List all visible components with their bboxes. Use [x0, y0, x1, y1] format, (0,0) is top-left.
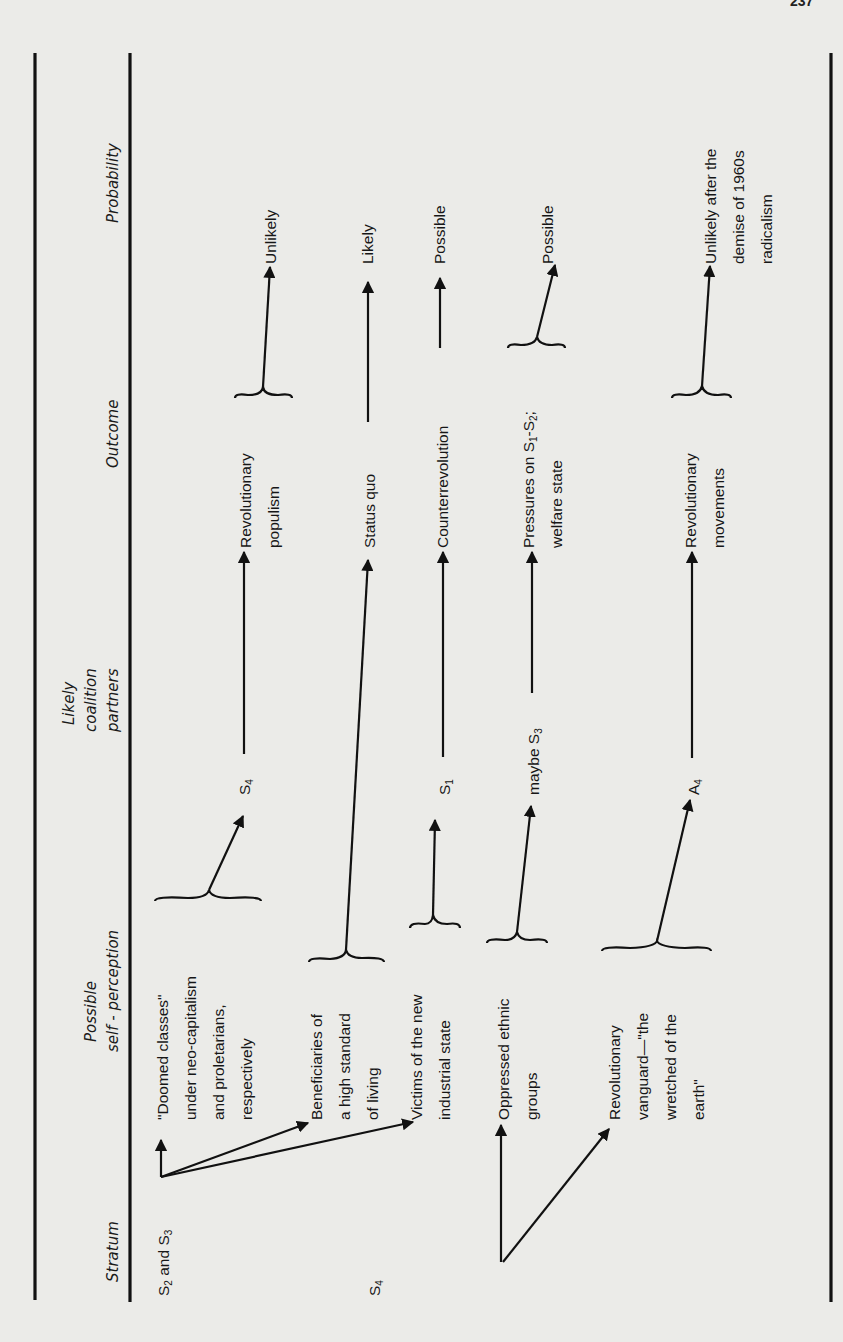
svg-text:Pressures on S1-S2;: Pressures on S1-S2;	[520, 411, 539, 548]
page-number: 237	[790, 0, 814, 9]
outcome-revolutionary-populism: Revolutionary populism	[237, 453, 282, 548]
svg-text:Unlikely after the: Unlikely after the	[702, 149, 719, 264]
arrows-to-outcomes	[244, 552, 692, 758]
svg-text:vanguard—"the: vanguard—"the	[634, 1013, 651, 1120]
arrows-from-s4	[501, 1125, 609, 1262]
svg-text:groups: groups	[523, 1072, 540, 1120]
header-stratum: Stratum	[104, 1221, 122, 1282]
svg-text:industrial state: industrial state	[436, 1020, 453, 1120]
svg-text:respectively: respectively	[238, 1038, 255, 1120]
svg-text:a high standard: a high standard	[336, 1013, 353, 1120]
svg-text:welfare state: welfare state	[548, 460, 565, 549]
stratum-s2-s3: S2 and S3	[155, 1229, 174, 1296]
self-perception-beneficiaries: Beneficiaries of a high standard of livi…	[308, 1013, 381, 1120]
stratum-s4: S4	[366, 1280, 385, 1296]
self-perception-revolutionary-vanguard: Revolutionary vanguard—"the wretched of …	[606, 1013, 707, 1121]
header-self-perception-2: self - perception	[104, 930, 122, 1052]
svg-text:Oppressed ethnic: Oppressed ethnic	[495, 998, 512, 1120]
probability-unlikely-after-1960s: Unlikely after the demise of 1960s radic…	[702, 149, 775, 264]
svg-text:S4: S4	[366, 1280, 385, 1296]
self-perception-doomed-classes: "Doomed classes" under neo-capitalism an…	[154, 976, 255, 1120]
partner-maybe-s3: maybe S3	[525, 728, 544, 795]
svg-text:Beneficiaries of: Beneficiaries of	[308, 1013, 325, 1120]
svg-text:wretched of the: wretched of the	[662, 1014, 679, 1121]
arrows-from-s2-s3	[161, 1122, 413, 1177]
svg-text:of living: of living	[364, 1067, 381, 1120]
svg-text:Likely: Likely	[359, 224, 376, 264]
partner-s4: S4	[236, 779, 255, 795]
svg-text:under neo-capitalism: under neo-capitalism	[182, 976, 199, 1120]
svg-text:"Doomed classes": "Doomed classes"	[154, 994, 171, 1120]
svg-text:Revolutionary: Revolutionary	[682, 453, 699, 548]
svg-text:S2 and S3: S2 and S3	[155, 1229, 174, 1296]
svg-text:Counterrevolution: Counterrevolution	[434, 426, 451, 548]
outcome-revolutionary-movements: Revolutionary movements	[682, 453, 727, 548]
braces-self-perception	[155, 560, 711, 962]
stratum-flow-diagram: 237 Stratum Possible self - perception L…	[0, 0, 843, 1342]
svg-text:A4: A4	[685, 779, 704, 795]
header-coalition-2: coalition	[82, 668, 100, 732]
header-coalition-3: partners	[104, 668, 122, 733]
column-headers: Stratum Possible self - perception Likel…	[60, 142, 122, 1282]
svg-text:earth": earth"	[690, 1079, 707, 1120]
probability-unlikely: Unlikely	[262, 209, 279, 264]
svg-text:maybe S3: maybe S3	[525, 728, 544, 795]
header-self-perception-1: Possible	[82, 981, 100, 1042]
svg-text:Unlikely: Unlikely	[262, 209, 279, 264]
outcome-status-quo: Status quo	[361, 474, 378, 548]
arrows-to-probability	[235, 265, 731, 422]
outcome-counterrevolution: Counterrevolution	[434, 426, 451, 548]
self-perception-oppressed-ethnic: Oppressed ethnic groups	[495, 998, 540, 1120]
svg-text:Possible: Possible	[431, 205, 448, 264]
outcome-pressures-welfare-state: Pressures on S1-S2; welfare state	[520, 411, 565, 549]
svg-text:Possible: Possible	[539, 205, 556, 264]
header-probability: Probability	[104, 142, 122, 223]
svg-text:and proletarians,: and proletarians,	[210, 1005, 227, 1120]
probability-possible-1: Possible	[431, 205, 448, 264]
partner-a4: A4	[685, 779, 704, 795]
svg-text:S4: S4	[236, 779, 255, 795]
svg-text:Revolutionary: Revolutionary	[237, 453, 254, 548]
svg-text:S1: S1	[436, 779, 455, 795]
header-coalition-1: Likely	[60, 680, 78, 725]
svg-text:Victims of the new: Victims of the new	[408, 994, 425, 1120]
header-outcome: Outcome	[104, 400, 122, 468]
svg-text:Status quo: Status quo	[361, 474, 378, 548]
probability-possible-2: Possible	[539, 205, 556, 264]
self-perception-victims: Victims of the new industrial state	[408, 994, 453, 1120]
svg-text:populism: populism	[265, 486, 282, 548]
svg-text:radicalism: radicalism	[758, 194, 775, 264]
probability-likely: Likely	[359, 224, 376, 264]
svg-text:demise of 1960s: demise of 1960s	[730, 150, 747, 264]
svg-text:Revolutionary: Revolutionary	[606, 1025, 623, 1120]
svg-text:movements: movements	[710, 468, 727, 548]
partner-s1: S1	[436, 779, 455, 795]
